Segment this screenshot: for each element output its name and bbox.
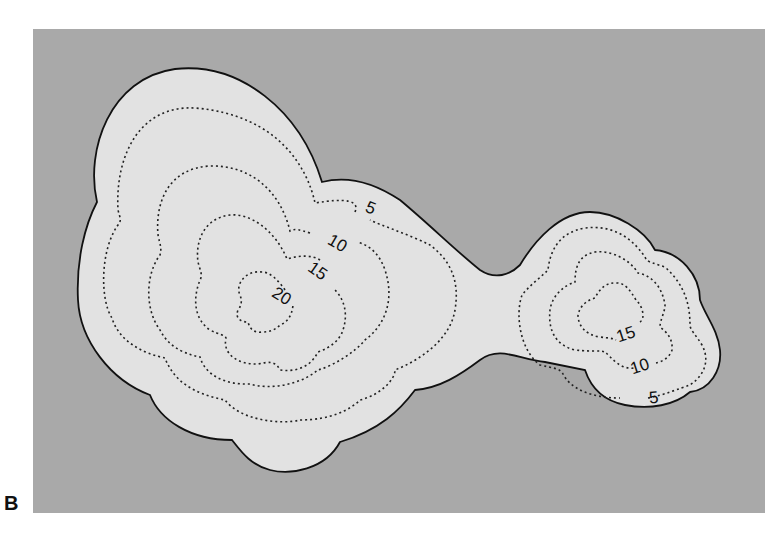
label-5-right: 5: [648, 388, 659, 408]
contour-map: 5 10 15 20 15 10 5: [0, 0, 777, 540]
